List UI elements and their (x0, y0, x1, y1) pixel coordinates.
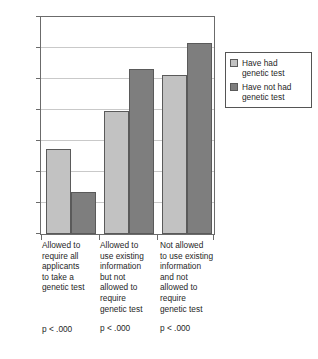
legend-swatch-light-icon (230, 59, 238, 67)
x-label-line: applicants (42, 261, 79, 271)
bar-group1-have-not-had (71, 192, 96, 235)
bar-chart: 70 60 50 40 30 20 10 0 (0, 0, 318, 359)
p-value-group-2: p < .000 (100, 323, 158, 334)
legend-label-line: Have had (242, 58, 278, 68)
x-label-line: and not (160, 272, 188, 282)
x-label-line: genetic test (100, 304, 142, 314)
legend-label-line: genetic test (242, 68, 284, 78)
bar-group2-have-had (104, 111, 129, 234)
legend-swatch-dark-icon (230, 83, 238, 91)
bar-group3-have-had (162, 75, 187, 234)
p-value-group-1: p < .000 (42, 324, 98, 335)
legend-item-have-had: Have had genetic test (230, 58, 306, 78)
bar-group-3 (162, 17, 216, 234)
bar-group3-have-not-had (187, 43, 212, 234)
bars-layer (42, 17, 214, 234)
legend-label-line: Have not had (242, 82, 291, 92)
bar-group-1 (46, 17, 100, 234)
x-label-line: genetic test (42, 282, 84, 292)
x-label-line: Not allowed (160, 240, 203, 250)
p-value-group-3: p < .000 (160, 323, 222, 334)
x-label-line: Allowed to (42, 240, 80, 250)
x-label-line: genetic test (160, 304, 202, 314)
x-label-line: allowed to (100, 282, 137, 292)
x-label-line: allowed to (160, 282, 197, 292)
x-label-line: use existing (100, 251, 144, 261)
x-label-line: information (160, 261, 201, 271)
x-label-line: Allowed to (100, 240, 138, 250)
x-label-line: require (160, 293, 186, 303)
legend-label-line: genetic test (242, 92, 291, 102)
x-label-group-3: Not allowed to use existing information … (160, 240, 222, 334)
x-label-line: require (100, 293, 126, 303)
x-label-group-1: Allowed to require all applicants to tak… (42, 240, 98, 335)
x-label-line: information (100, 261, 141, 271)
legend-label-have-had: Have had genetic test (242, 58, 284, 78)
legend-label-have-not-had: Have not had genetic test (242, 82, 291, 102)
bar-group1-have-had (46, 149, 71, 234)
bar-group-2 (104, 17, 158, 234)
legend: Have had genetic test Have not had genet… (225, 52, 312, 108)
bar-group2-have-not-had (129, 69, 154, 234)
legend-item-have-not-had: Have not had genetic test (230, 82, 306, 102)
x-label-group-2: Allowed to use existing information but … (100, 240, 158, 334)
x-label-line: require all (42, 251, 78, 261)
y-axis: 70 60 50 40 30 20 10 0 (0, 0, 40, 359)
x-label-line: but not (100, 272, 125, 282)
x-label-line: to take a (42, 272, 74, 282)
x-label-line: to use existing (160, 251, 213, 261)
